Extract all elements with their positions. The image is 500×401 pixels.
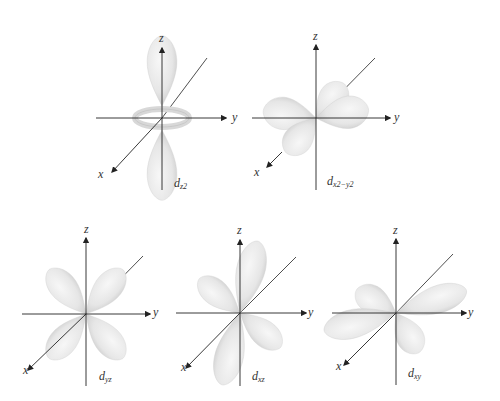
x-axis-label: x <box>23 364 28 376</box>
orbital-panel-dx2-y2: z y x dx2−y2 <box>230 0 400 200</box>
z-axis-label: z <box>84 223 89 235</box>
orbital-label-dx2-y2: dx2−y2 <box>327 175 354 189</box>
orbital-panel-dyz: z y x dyz <box>0 220 180 401</box>
y-axis-label: y <box>153 306 158 318</box>
y-axis-label: y <box>394 111 399 123</box>
orbital-label-dyz: dyz <box>99 370 112 384</box>
y-axis-label: y <box>308 306 313 318</box>
z-axis-label: z <box>237 224 242 236</box>
x-axis-label: x <box>254 166 259 178</box>
y-axis-label: y <box>468 306 473 318</box>
orbital-label-dxz: dxz <box>252 370 265 384</box>
orbital-label-dz2: dz2 <box>174 177 187 191</box>
z-axis-label: z <box>159 32 164 44</box>
orbital-panel-dz2: z y x dz2 <box>90 0 250 200</box>
x-axis-label: x <box>336 360 341 372</box>
orbital-label-dxy: dxy <box>408 367 421 381</box>
x-axis-label: x <box>98 168 103 180</box>
z-axis-label: z <box>313 30 318 42</box>
dz2-orbital-drawing <box>90 0 250 200</box>
x-axis-label: x <box>181 361 186 373</box>
z-axis-label: z <box>393 224 398 236</box>
orbital-panel-dxy: z y x dxy <box>320 220 500 401</box>
orbital-panel-dxz: z y x dxz <box>160 220 330 401</box>
